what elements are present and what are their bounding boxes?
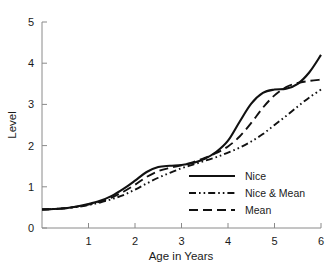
legend-label-mean: Mean (245, 204, 271, 216)
legend-item-nice[interactable]: Nice (189, 170, 266, 182)
y-tick-label: 2 (28, 140, 34, 152)
y-tick-label: 3 (28, 98, 34, 110)
y-axis-tick-labels: 012345 (28, 16, 34, 234)
x-tick-label: 4 (225, 235, 231, 247)
legend-label-nice-mean: Nice & Mean (245, 187, 305, 199)
x-tick-label: 6 (318, 235, 324, 247)
legend-item-mean[interactable]: Mean (189, 204, 271, 216)
x-tick-label: 3 (178, 235, 184, 247)
y-tick-label: 1 (28, 181, 34, 193)
x-tick-label: 2 (132, 235, 138, 247)
legend-label-nice: Nice (245, 170, 266, 182)
x-tick-label: 1 (85, 235, 91, 247)
x-tick-label: 5 (271, 235, 277, 247)
line-chart: 012345 123456 Age in Years Level NiceNic… (0, 0, 336, 268)
x-axis-tick-labels: 123456 (85, 235, 324, 247)
legend-item-nice-mean[interactable]: Nice & Mean (189, 187, 305, 199)
y-tick-label: 4 (28, 57, 34, 69)
y-tick-label: 5 (28, 16, 34, 28)
x-axis-title: Age in Years (149, 250, 214, 262)
x-axis-ticks (89, 223, 322, 228)
y-tick-label: 0 (28, 222, 34, 234)
chart-container: 012345 123456 Age in Years Level NiceNic… (0, 0, 336, 268)
legend: NiceNice & MeanMean (189, 170, 305, 216)
y-axis-ticks (42, 22, 47, 228)
y-axis-title: Level (6, 111, 18, 139)
